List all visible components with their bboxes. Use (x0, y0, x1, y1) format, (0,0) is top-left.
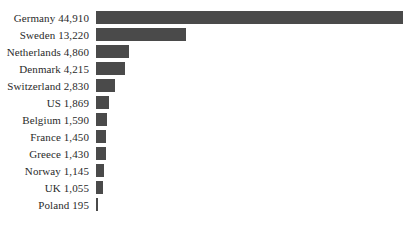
bar-track (96, 128, 420, 145)
bar (96, 62, 125, 75)
bar-row-label: Greece 1,430 (0, 148, 96, 160)
bar (96, 164, 104, 177)
bar (96, 113, 107, 126)
bar-track (96, 111, 420, 128)
bar-track (96, 9, 420, 26)
bar-row: Denmark 4,215 (0, 60, 420, 77)
bar (96, 147, 106, 160)
bar-track (96, 196, 420, 213)
bar-track (96, 77, 420, 94)
bar (96, 45, 129, 58)
bar (96, 28, 186, 41)
bar-row-label: Netherlands 4,860 (0, 46, 96, 58)
bar-row-label: UK 1,055 (0, 182, 96, 194)
bar-track (96, 60, 420, 77)
bar (96, 96, 109, 109)
bar (96, 130, 106, 143)
bar-row-label: Poland 195 (0, 199, 96, 211)
bar (96, 79, 115, 92)
bar-row-label: Switzerland 2,830 (0, 80, 96, 92)
bar-row: Poland 195 (0, 196, 420, 213)
bar (96, 11, 403, 24)
bar-row-label: France 1,450 (0, 131, 96, 143)
bar-row: France 1,450 (0, 128, 420, 145)
bar-row: Switzerland 2,830 (0, 77, 420, 94)
bar-track (96, 145, 420, 162)
bar-row: Belgium 1,590 (0, 111, 420, 128)
bar-track (96, 162, 420, 179)
bar-row: Norway 1,145 (0, 162, 420, 179)
bar (96, 198, 98, 211)
bar-row-label: Germany 44,910 (0, 12, 96, 24)
bar-row: Netherlands 4,860 (0, 43, 420, 60)
bar-row: US 1,869 (0, 94, 420, 111)
bar-row-label: Denmark 4,215 (0, 63, 96, 75)
bar-row: Sweden 13,220 (0, 26, 420, 43)
bar-row-label: US 1,869 (0, 97, 96, 109)
horizontal-bar-chart: Germany 44,910Sweden 13,220Netherlands 4… (0, 0, 420, 242)
bar-track (96, 94, 420, 111)
bar-track (96, 179, 420, 196)
bar (96, 181, 103, 194)
bar-row: Greece 1,430 (0, 145, 420, 162)
bar-row: Germany 44,910 (0, 9, 420, 26)
bar-track (96, 43, 420, 60)
bar-row-label: Belgium 1,590 (0, 114, 96, 126)
bar-row-label: Norway 1,145 (0, 165, 96, 177)
bar-row: UK 1,055 (0, 179, 420, 196)
bar-row-label: Sweden 13,220 (0, 29, 96, 41)
bar-track (96, 26, 420, 43)
